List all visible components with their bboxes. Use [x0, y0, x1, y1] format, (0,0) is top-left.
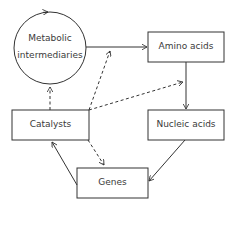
edge-catalysts-to-genes	[88, 140, 104, 165]
metabolic-label-line1: Metabolic	[14, 31, 86, 46]
nucleic-acids-label: Nucleic acids	[148, 117, 224, 132]
metabolic-label-line2: intermediaries	[14, 48, 86, 63]
edge-genes-to-catalysts	[52, 142, 77, 185]
amino-acids-label: Amino acids	[148, 39, 224, 54]
edge-catalysts-to-amino-nucleic	[89, 82, 183, 110]
catalysts-label: Catalysts	[12, 117, 89, 132]
genes-label: Genes	[77, 175, 148, 190]
edge-nucleic-to-genes	[149, 140, 185, 181]
edge-catalysts-to-metabolic-amino	[89, 51, 110, 110]
